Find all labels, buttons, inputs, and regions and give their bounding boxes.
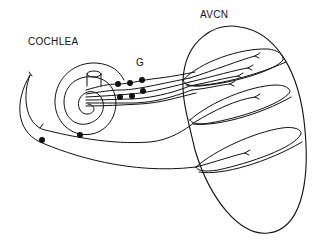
lamina-3 [196,127,301,171]
avcn-label: AVCN [200,9,228,20]
ganglion-cells [39,77,146,143]
cochlea-window [87,71,101,77]
cochlea-label: COCHLEA [28,36,78,47]
cochlea-spiral [55,63,124,135]
lamina-1 [183,49,283,86]
avcn-outline [183,26,306,233]
diagram-canvas: COCHLEA G AVCN [0,0,317,246]
ganglion-label: G [136,57,144,68]
